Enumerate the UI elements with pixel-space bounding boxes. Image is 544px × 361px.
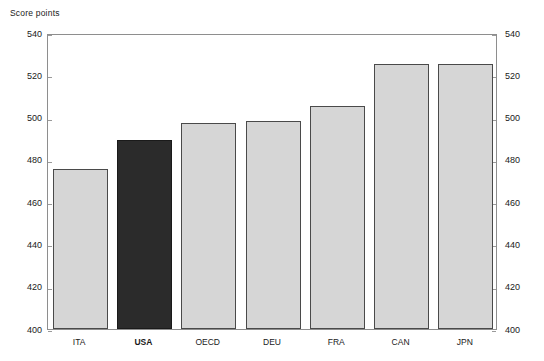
y-axis-tick-label: 520: [2, 72, 42, 81]
y-axis-tick-label: 480: [2, 156, 42, 165]
bar-fra: [310, 106, 365, 329]
y-axis-tick-label-right: 420: [505, 283, 544, 292]
y-tick-mark: [48, 77, 52, 78]
plot-area: [47, 34, 497, 330]
bar-oecd: [181, 123, 236, 329]
x-axis-label-ita: ITA: [47, 338, 111, 347]
bar-can: [374, 64, 429, 329]
y-axis-tick-label-right: 400: [505, 326, 544, 335]
y-tick-mark: [48, 289, 52, 290]
y-axis-tick-label-right: 540: [505, 30, 544, 39]
y-axis-tick-label: 440: [2, 241, 42, 250]
y-axis-tick-label: 460: [2, 199, 42, 208]
y-tick-mark: [48, 162, 52, 163]
bar-jpn: [438, 64, 493, 329]
y-axis-tick-label-right: 460: [505, 199, 544, 208]
x-axis-label-usa: USA: [111, 338, 175, 347]
x-axis-label-deu: DEU: [240, 338, 304, 347]
y-tick-mark: [48, 120, 52, 121]
bar-ita: [53, 169, 108, 329]
x-axis-label-jpn: JPN: [433, 338, 497, 347]
x-axis-label-fra: FRA: [304, 338, 368, 347]
bar-deu: [246, 121, 301, 329]
x-axis-label-can: CAN: [368, 338, 432, 347]
y-axis-tick-label-right: 500: [505, 114, 544, 123]
y-axis-tick-label: 420: [2, 283, 42, 292]
y-tick-mark: [48, 246, 52, 247]
y-tick-mark: [48, 204, 52, 205]
y-axis-tick-label-right: 440: [505, 241, 544, 250]
y-tick-mark: [48, 35, 52, 36]
bar-usa: [117, 140, 172, 329]
x-axis-label-oecd: OECD: [176, 338, 240, 347]
y-tick-mark: [492, 35, 496, 36]
y-axis-tick-label-right: 520: [505, 72, 544, 81]
bar-chart: Score points 400420440460480500520540 40…: [0, 0, 544, 361]
chart-axis-title: Score points: [10, 8, 60, 18]
y-tick-mark: [492, 331, 496, 332]
y-axis-tick-label: 500: [2, 114, 42, 123]
y-tick-mark: [48, 331, 52, 332]
y-axis-tick-label-right: 480: [505, 156, 544, 165]
y-axis-tick-label: 540: [2, 30, 42, 39]
y-axis-tick-label: 400: [2, 326, 42, 335]
